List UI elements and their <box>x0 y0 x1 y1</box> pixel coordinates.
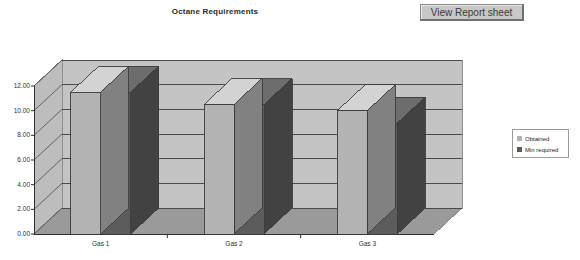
chart-title: Octane Requirements <box>0 7 430 16</box>
x-axis-category-label: Gas 2 <box>204 240 264 247</box>
legend-swatch-icon <box>517 147 522 152</box>
y-axis-tick-label: 0.00 <box>0 230 30 237</box>
y-axis-tick-label: 8.00 <box>0 131 30 138</box>
legend-item-min-required: Min required <box>517 144 565 155</box>
legend-label: Min required <box>525 147 558 153</box>
y-axis-tick-label: 4.00 <box>0 181 30 188</box>
chart-window: Octane Requirements View Report sheet 0.… <box>0 0 580 260</box>
legend-label: Obtained <box>525 136 549 142</box>
y-axis-tick-label: 12.00 <box>0 82 30 89</box>
chart-canvas <box>28 28 488 240</box>
x-axis-category-label: Gas 3 <box>337 240 397 247</box>
x-axis-category-label: Gas 1 <box>71 240 131 247</box>
plot-area: 0.002.004.006.008.0010.0012.00 Gas 1Gas … <box>28 28 488 240</box>
y-axis-tick-label: 6.00 <box>0 156 30 163</box>
view-report-sheet-button[interactable]: View Report sheet <box>420 4 524 21</box>
chart-legend: Obtained Min required <box>512 129 569 158</box>
y-axis-tick-label: 10.00 <box>0 107 30 114</box>
y-axis-tick-label: 2.00 <box>0 205 30 212</box>
legend-swatch-icon <box>517 136 522 141</box>
legend-item-obtained: Obtained <box>517 133 565 144</box>
